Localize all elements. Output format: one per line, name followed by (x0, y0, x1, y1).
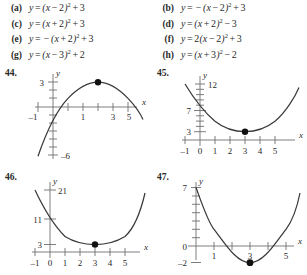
y-tick-label-3: 3 (38, 240, 43, 250)
x-tick-label--1: –1 (28, 112, 38, 122)
parabola-curve (185, 84, 299, 132)
x-tick-label-3: 3 (93, 258, 98, 268)
x-tick-label-4: 4 (108, 258, 113, 268)
x-tick-label-0: 0 (48, 258, 53, 268)
choice-equation-b: y=−(x−2)2+3 (181, 2, 246, 13)
choice-label-c: (c) (0, 19, 29, 29)
x-tick-label-5: 5 (284, 251, 289, 261)
answer-choice-g[interactable]: (g) y=(x−3)2+2 (0, 49, 152, 60)
x-tick-label-0: 0 (198, 146, 203, 156)
answer-choice-c[interactable]: (c) y=(x+2)2+3 (0, 18, 152, 29)
graph-45-figure: –1 0 1 2 3 4 5 12 7 3 x y (152, 62, 307, 166)
choice-label-b: (b) (152, 3, 181, 13)
x-tick-label-3: 3 (111, 112, 116, 122)
x-tick-label--1: –1 (180, 146, 190, 156)
choice-equation-a: y=(x−2)2+3 (29, 2, 85, 13)
graph-panel-46: 46. –1 0 1 2 3 4 5 21 11 3 x y (0, 166, 152, 275)
vertex-point (95, 79, 101, 85)
y-axis-label: y (55, 68, 60, 78)
answer-choice-b[interactable]: (b) y=−(x−2)2+3 (152, 2, 307, 13)
x-tick-label-5: 5 (273, 146, 278, 156)
x-tick-label-5: 5 (123, 258, 128, 268)
choice-equation-g: y=(x−3)2+2 (29, 49, 85, 60)
choice-equation-d: y=(x+2)2−3 (181, 18, 237, 29)
x-tick-label-3: 3 (243, 146, 248, 156)
y-axis-label: y (198, 176, 203, 186)
choice-label-g: (g) (0, 50, 29, 60)
x-tick-label-3: 3 (248, 251, 253, 261)
graph-44-figure: –1 1 3 5 3 –6 x y (0, 62, 152, 166)
x-tick-label-1: 1 (212, 251, 217, 261)
x-tick-label-4: 4 (258, 146, 263, 156)
choice-equation-e: y=−(x+2)2+3 (29, 33, 94, 44)
y-tick-label--2: –2 (177, 258, 187, 268)
graph-46-figure: –1 0 1 2 3 4 5 21 11 3 x y (0, 166, 152, 275)
y-tick-label-3: 3 (40, 78, 45, 88)
answer-choice-a[interactable]: (a) y=(x−2)2+3 (0, 2, 152, 13)
y-axis-label: y (202, 70, 207, 80)
answer-choice-f[interactable]: (f) y=2(x−2)2+3 (152, 33, 307, 44)
y-tick-label-12: 12 (208, 80, 217, 90)
x-tick-label-2: 2 (78, 258, 83, 268)
x-tick-label-1: 1 (213, 146, 218, 156)
x-axis-label: x (297, 236, 302, 246)
answer-choice-h[interactable]: (h) y=(x+3)2−2 (152, 49, 307, 60)
graph-panel-47: 47. 1 3 5 7 0 –2 x y (152, 166, 307, 275)
vertex-point (92, 241, 98, 247)
x-axis-label: x (298, 130, 303, 140)
choice-label-f: (f) (152, 34, 181, 44)
y-tick-label-21: 21 (58, 186, 67, 196)
choice-label-h: (h) (152, 50, 181, 60)
x-axis-label: x (141, 97, 146, 107)
answer-choice-e[interactable]: (e) y=−(x+2)2+3 (0, 33, 152, 44)
y-tick-label-3: 3 (187, 127, 192, 137)
x-tick-label-1: 1 (81, 112, 86, 122)
x-tick-label--1: –1 (30, 258, 40, 268)
graph-panel-44: 44. –1 1 3 (0, 62, 152, 166)
y-tick-label-7: 7 (187, 106, 192, 116)
parabola-curve (35, 190, 145, 245)
choice-label-e: (e) (0, 34, 29, 44)
x-tick-label-2: 2 (228, 146, 233, 156)
choice-equation-c: y=(x+2)2+3 (29, 18, 85, 29)
y-tick-label-11: 11 (33, 215, 42, 225)
y-axis-label: y (52, 176, 57, 186)
answer-choice-list: (a) y=(x−2)2+3 (b) y=−(x−2)2+3 (c) y=(x+… (0, 0, 307, 62)
y-tick-label-7: 7 (183, 183, 188, 193)
choice-label-d: (d) (152, 19, 181, 29)
choice-label-a: (a) (0, 3, 29, 13)
y-tick-label-0: 0 (183, 242, 188, 252)
choice-equation-h: y=(x+3)2−2 (181, 49, 237, 60)
answer-choice-d[interactable]: (d) y=(x+2)2−3 (152, 18, 307, 29)
graph-47-figure: 1 3 5 7 0 –2 x y (152, 166, 307, 275)
y-tick-label--6: –6 (60, 151, 71, 161)
x-axis-label: x (143, 242, 148, 252)
x-tick-label-5: 5 (127, 112, 132, 122)
x-tick-label-1: 1 (63, 258, 68, 268)
vertex-point (242, 129, 248, 135)
graph-panel-45: 45. –1 0 1 2 3 4 (152, 62, 307, 166)
choice-equation-f: y=2(x−2)2+3 (181, 33, 242, 44)
